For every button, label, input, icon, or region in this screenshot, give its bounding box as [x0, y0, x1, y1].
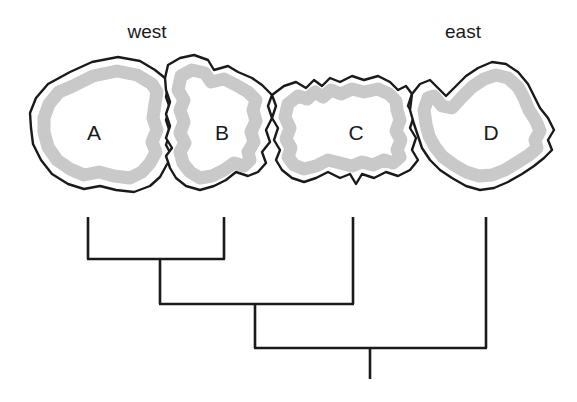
figure-canvas: west east A B C D — [0, 0, 577, 402]
area-label-D: D — [483, 121, 498, 144]
area-label-A: A — [87, 121, 101, 144]
area-shape-D: D — [410, 62, 554, 190]
area-cladogram-figure: west east A B C D — [0, 0, 577, 402]
area-shape-C: C — [272, 76, 418, 184]
compass-label-east: east — [445, 21, 482, 42]
area-label-B: B — [215, 121, 229, 144]
compass-label-west: west — [126, 21, 167, 42]
cladogram — [87, 217, 487, 379]
area-shape-A: A — [30, 57, 172, 192]
area-shape-B: B — [165, 55, 272, 190]
area-label-C: C — [348, 121, 363, 144]
